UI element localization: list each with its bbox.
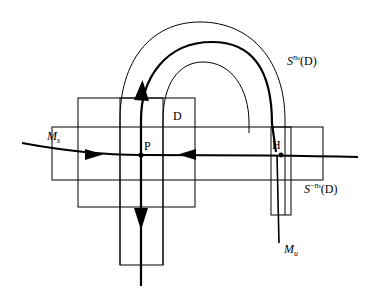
- label-stable-manifold: Ms: [47, 130, 60, 145]
- stable-arrow-left-icon: [178, 149, 196, 160]
- label-unstable-manifold-base: M: [284, 242, 294, 256]
- unstable-manifold-curve: [141, 42, 276, 286]
- label-unstable-manifold-sub: u: [294, 249, 298, 258]
- homoclinic-tangle-diagram: [0, 0, 369, 294]
- unstable-arrow-down-icon: [134, 208, 148, 230]
- label-point-p: P: [144, 140, 151, 152]
- label-backward-image: S−ns(D): [304, 182, 338, 195]
- fixed-point-p-marker: [138, 152, 143, 157]
- label-unstable-manifold: Mu: [284, 243, 298, 258]
- forward-image-band-inner: [163, 62, 249, 265]
- label-stable-manifold-base: M: [47, 129, 57, 143]
- label-region-d: D: [173, 110, 182, 122]
- unstable-manifold-tail: [277, 155, 279, 243]
- stable-arrow-right-icon: [85, 149, 103, 160]
- label-forward-image: Snu(D): [287, 54, 317, 67]
- figure-container: Ms Mu P H D Snu(D) S−ns(D): [0, 0, 369, 294]
- fixed-point-h-marker: [279, 153, 284, 158]
- label-backward-image-arg: (D): [321, 182, 338, 196]
- label-point-h: H: [272, 139, 281, 151]
- label-stable-manifold-sub: s: [57, 136, 60, 145]
- unstable-arrow-up-icon: [134, 80, 149, 101]
- label-forward-image-arg: (D): [300, 54, 317, 68]
